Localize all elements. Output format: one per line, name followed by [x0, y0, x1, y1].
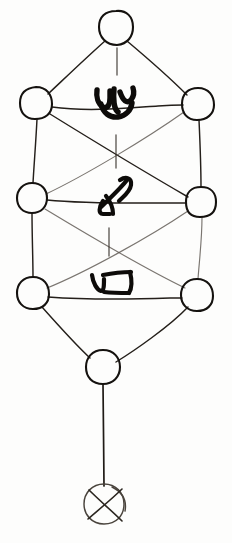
- edge-top-upper-left: [48, 41, 105, 94]
- glyph-mem: [92, 272, 131, 293]
- edge-middle-left-lower-right: [45, 209, 185, 288]
- edge-middle-right-lower-right: [198, 217, 202, 279]
- mem-left-stroke: [92, 275, 104, 291]
- edge-upper-left-middle-left: [33, 119, 37, 183]
- edge-lower-left-bottom: [42, 307, 90, 358]
- node-top[interactable]: [99, 11, 133, 45]
- edge-top-upper-right: [127, 41, 187, 95]
- shin-right-arm: [120, 88, 134, 102]
- edge-lower-left-lower-right: [48, 297, 182, 299]
- node-lower-left[interactable]: [17, 277, 49, 309]
- tree-diagram: [0, 0, 232, 543]
- mem-right-stroke: [129, 272, 131, 293]
- edge-upper-left-middle-right: [50, 114, 188, 197]
- glyph-aleph: [100, 178, 131, 214]
- node-middle-right[interactable]: [186, 187, 216, 217]
- node-lower-right[interactable]: [181, 279, 213, 311]
- node-upper-right[interactable]: [182, 88, 214, 120]
- edge-bottom-earth-stem: [103, 384, 104, 486]
- edge-lower-right-bottom: [116, 307, 188, 362]
- node-middle-left[interactable]: [17, 183, 47, 213]
- edge-middle-left-middle-right: [47, 200, 186, 203]
- node-upper-left[interactable]: [20, 87, 52, 119]
- figure-root: Sefer Yetzirah tree diagram Hand-drawn i…: [0, 0, 232, 543]
- mem-base-stroke: [104, 292, 129, 293]
- earth-symbol[interactable]: [84, 484, 125, 524]
- mem-top-bar: [103, 272, 131, 275]
- node-bottom[interactable]: [86, 350, 120, 384]
- edge-upper-right-middle-right: [199, 120, 201, 187]
- edge-middle-left-lower-left: [32, 213, 33, 277]
- glyph-shin: [97, 88, 134, 117]
